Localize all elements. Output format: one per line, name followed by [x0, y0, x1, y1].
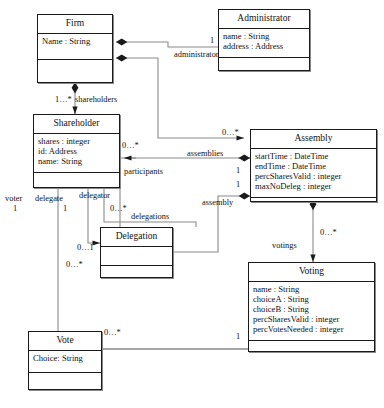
multiplicity-delegator: 0…* — [110, 204, 127, 213]
class-name-voting: Voting — [249, 263, 374, 282]
role-label-delegate: delegate — [35, 194, 63, 203]
attribute: choiceB : String — [253, 304, 371, 314]
class-attributes-administrator: name : String address : Address — [219, 29, 309, 58]
attribute: name : String — [223, 31, 306, 41]
attribute: endTime : DateTime — [255, 161, 373, 171]
multiplicity-assemblies: 0…* — [222, 128, 239, 137]
class-operations-voting — [249, 341, 374, 351]
role-label-delegator: delegator — [79, 191, 110, 200]
class-operations-assembly — [251, 198, 376, 208]
multiplicity-administrator: 1 — [210, 36, 214, 45]
attribute: Name : String — [42, 36, 109, 46]
class-box-voting: Voting name : String choiceA : String ch… — [248, 262, 375, 352]
multiplicity-shareholders: 1…* — [55, 95, 72, 104]
role-label-voter: voter — [5, 194, 22, 203]
class-operations-vote — [29, 373, 101, 383]
attribute: id: Address — [38, 146, 116, 156]
multiplicity-delegation-zero-one: 0…1 — [77, 243, 94, 252]
role-label-assemblies: assemblies — [187, 149, 223, 158]
class-box-vote: Vote Choice: String — [28, 331, 102, 390]
multiplicity-votings: 0…* — [320, 228, 337, 237]
multiplicity-delegate: 1 — [63, 204, 67, 213]
attribute: startTime : DateTime — [255, 151, 373, 161]
multiplicity-delegation-many: 0…* — [66, 260, 83, 269]
class-attributes-assembly: startTime : DateTime endTime : DateTime … — [251, 149, 376, 198]
role-label-assembly: assembly — [202, 198, 233, 207]
class-attributes-vote: Choice: String — [29, 351, 101, 373]
class-box-assembly: Assembly startTime : DateTime endTime : … — [250, 129, 377, 202]
attribute: Choice: String — [33, 353, 98, 363]
class-name-delegation: Delegation — [101, 228, 172, 247]
multiplicity-participants: 0…* — [122, 141, 139, 150]
attribute: choiceA : String — [253, 294, 371, 304]
role-label-shareholders: shareholders — [75, 95, 117, 104]
class-operations-shareholder — [34, 173, 119, 183]
class-name-assembly: Assembly — [251, 130, 376, 149]
class-box-shareholder: Shareholder shares : integer id: Address… — [33, 114, 120, 188]
class-operations-firm — [38, 60, 112, 70]
class-operations-administrator — [219, 58, 309, 68]
uml-class-diagram: Firm Name : String Administrator name : … — [0, 0, 384, 408]
attribute: address : Address — [223, 41, 306, 51]
multiplicity-assembly-b: 1 — [236, 180, 240, 189]
multiplicity-assembly-a: 1 — [236, 166, 240, 175]
attribute: percSharesValid : integer — [253, 314, 371, 324]
role-label-votings: votings — [272, 241, 297, 250]
role-label-participants: participants — [124, 167, 163, 176]
class-attributes-voting: name : String choiceA : String choiceB :… — [249, 282, 374, 341]
class-attributes-shareholder: shares : integer id: Address name: Strin… — [34, 134, 119, 173]
role-label-delegations: delegations — [131, 212, 169, 221]
attribute: name: String — [38, 156, 116, 166]
class-box-firm: Firm Name : String — [37, 14, 113, 83]
role-label-administrator: administrator — [174, 50, 219, 59]
class-operations-delegation — [101, 266, 172, 276]
attribute: maxNoDeleg : integer — [255, 181, 373, 191]
class-name-shareholder: Shareholder — [34, 115, 119, 134]
class-name-firm: Firm — [38, 15, 112, 34]
class-name-administrator: Administrator — [219, 10, 309, 29]
class-box-administrator: Administrator name : String address : Ad… — [218, 9, 310, 71]
attribute: percVotesNeeded : integer — [253, 324, 371, 334]
attribute: name : String — [253, 284, 371, 294]
class-attributes-delegation — [101, 247, 172, 266]
multiplicity-voting-one: 1 — [236, 332, 240, 341]
attribute: shares : integer — [38, 136, 116, 146]
multiplicity-vote-many: 0…* — [104, 328, 121, 337]
attribute: percSharesValid : integer — [255, 171, 373, 181]
class-attributes-firm: Name : String — [38, 34, 112, 60]
class-box-delegation: Delegation — [100, 227, 173, 278]
multiplicity-voter: 1 — [13, 204, 17, 213]
class-name-vote: Vote — [29, 332, 101, 351]
